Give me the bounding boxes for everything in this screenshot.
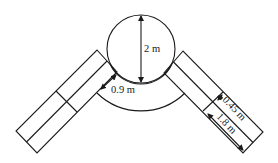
diagram-canvas: 2 m 0.9 m 0.45 m 1.8 m bbox=[0, 0, 278, 163]
conveyor-diagram: 2 m 0.9 m 0.45 m 1.8 m bbox=[0, 0, 278, 163]
left-conveyor bbox=[16, 50, 117, 153]
right-conveyor bbox=[164, 51, 263, 153]
lower-arc bbox=[97, 93, 185, 111]
label-drum-diameter: 2 m bbox=[144, 43, 160, 54]
label-gap-distance: 0.9 m bbox=[111, 84, 135, 95]
